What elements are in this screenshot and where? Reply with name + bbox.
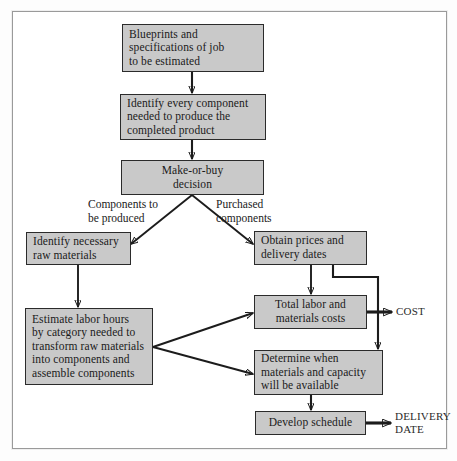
- node-estimate-labor-hours[interactable]: Estimate labor hours by category needed …: [25, 308, 153, 385]
- node-develop-schedule-label: Develop schedule: [256, 416, 365, 430]
- node-make-or-buy-decision-label: Make-or-buy decision: [122, 164, 263, 191]
- node-identify-raw-materials-label: Identify necessary raw materials: [27, 235, 130, 262]
- node-develop-schedule[interactable]: Develop schedule: [255, 411, 366, 435]
- node-identify-raw-materials[interactable]: Identify necessary raw materials: [26, 232, 131, 265]
- node-total-costs-label: Total labor and materials costs: [255, 298, 366, 325]
- node-determine-availability-label: Determine when materials and capacity wi…: [255, 352, 382, 393]
- node-total-costs[interactable]: Total labor and materials costs: [254, 295, 367, 329]
- node-identify-components[interactable]: Identify every component needed to produ…: [120, 94, 266, 140]
- output-label-delivery-date: DELIVERY DATE: [395, 410, 451, 435]
- node-make-or-buy-decision[interactable]: Make-or-buy decision: [121, 160, 264, 195]
- edge-label-purchased-components: Purchased components: [216, 198, 316, 225]
- edge-estimate-to-totalcosts: [153, 313, 253, 347]
- edge-estimate-to-determine: [153, 347, 253, 374]
- node-determine-availability[interactable]: Determine when materials and capacity wi…: [254, 350, 383, 395]
- node-estimate-labor-hours-label: Estimate labor hours by category needed …: [26, 313, 152, 381]
- edge-label-components-to-be-produced: Components to be produced: [88, 198, 198, 225]
- output-label-cost: COST: [396, 305, 425, 318]
- node-obtain-prices-label: Obtain prices and delivery dates: [255, 234, 366, 261]
- node-blueprints-label: Blueprints and specifications of job to …: [123, 28, 263, 69]
- node-identify-components-label: Identify every component needed to produ…: [121, 97, 265, 138]
- flowchart-page: Blueprints and specifications of job to …: [0, 0, 457, 461]
- node-obtain-prices[interactable]: Obtain prices and delivery dates: [254, 231, 367, 265]
- node-blueprints[interactable]: Blueprints and specifications of job to …: [122, 24, 264, 72]
